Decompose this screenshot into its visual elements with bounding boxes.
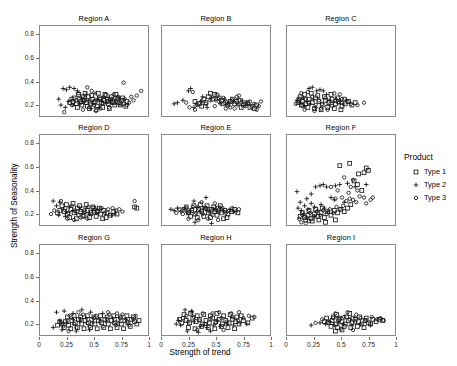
x-tick-label: 0 xyxy=(276,341,296,348)
panel-title-region-b: Region B xyxy=(161,14,271,23)
y-tick-mark xyxy=(36,253,39,254)
scatter-panel-region-d xyxy=(39,134,149,226)
x-tick-mark xyxy=(94,337,95,340)
legend-label: Type 1 xyxy=(424,167,446,176)
x-tick-mark xyxy=(244,337,245,340)
y-tick-mark xyxy=(36,214,39,215)
x-tick-mark xyxy=(341,337,342,340)
x-tick-mark xyxy=(396,337,397,340)
y-tick-mark xyxy=(36,58,39,59)
plus-marker-icon xyxy=(410,179,422,191)
panel-title-region-h: Region H xyxy=(161,233,271,242)
x-tick-label: 1 xyxy=(386,341,406,348)
x-tick-mark xyxy=(39,337,40,340)
x-axis-label: Strength of trend xyxy=(0,348,400,357)
x-tick-mark xyxy=(149,337,150,340)
y-tick-mark xyxy=(36,191,39,192)
x-tick-mark xyxy=(67,337,68,340)
x-tick-mark xyxy=(161,337,162,340)
x-tick-label: 0.5 xyxy=(206,341,226,348)
x-tick-label: 0.75 xyxy=(112,341,132,348)
scatter-panel-region-f xyxy=(286,134,396,226)
x-tick-mark xyxy=(189,337,190,340)
x-tick-label: 0.25 xyxy=(57,341,77,348)
y-tick-mark xyxy=(36,277,39,278)
x-tick-label: 0 xyxy=(29,341,49,348)
y-tick-mark xyxy=(36,301,39,302)
panel-title-region-i: Region I xyxy=(286,233,396,242)
y-tick-label: 0.2 xyxy=(11,320,34,327)
x-tick-mark xyxy=(122,337,123,340)
y-axis-label: Strength of Seasonality xyxy=(10,48,19,248)
x-tick-mark xyxy=(286,337,287,340)
y-tick-mark xyxy=(36,82,39,83)
scatter-panel-region-i xyxy=(286,244,396,336)
y-tick-label: 0.8 xyxy=(11,30,34,37)
x-tick-label: 0.75 xyxy=(234,341,254,348)
x-tick-mark xyxy=(369,337,370,340)
panel-title-region-a: Region A xyxy=(39,14,149,23)
y-tick-label: 0.6 xyxy=(11,273,34,280)
y-tick-mark xyxy=(36,143,39,144)
x-tick-label: 0 xyxy=(151,341,171,348)
x-tick-label: 0.5 xyxy=(331,341,351,348)
scatter-matrix-figure: Region ARegion BRegion CRegion DRegion E… xyxy=(0,0,457,366)
scatter-panel-region-g xyxy=(39,244,149,336)
circle-marker-icon xyxy=(410,192,422,204)
x-tick-label: 0.75 xyxy=(359,341,379,348)
y-tick-mark xyxy=(36,324,39,325)
legend-label: Type 3 xyxy=(424,193,446,202)
x-tick-mark xyxy=(271,337,272,340)
scatter-panel-region-e xyxy=(161,134,271,226)
scatter-panel-region-b xyxy=(161,25,271,117)
y-tick-mark xyxy=(36,167,39,168)
scatter-panel-region-h xyxy=(161,244,271,336)
x-tick-mark xyxy=(216,337,217,340)
scatter-panel-region-c xyxy=(286,25,396,117)
legend-title: Product xyxy=(404,152,433,162)
panel-title-region-e: Region E xyxy=(161,123,271,132)
x-tick-mark xyxy=(314,337,315,340)
y-tick-label: 0.4 xyxy=(11,297,34,304)
x-tick-label: 0.25 xyxy=(179,341,199,348)
x-tick-label: 0.25 xyxy=(304,341,324,348)
panel-title-region-c: Region C xyxy=(286,14,396,23)
panel-title-region-g: Region G xyxy=(39,233,149,242)
legend-label: Type 2 xyxy=(424,180,446,189)
x-tick-label: 0.5 xyxy=(84,341,104,348)
y-tick-mark xyxy=(36,105,39,106)
square-marker-icon xyxy=(410,166,422,178)
panel-title-region-f: Region F xyxy=(286,123,396,132)
panel-title-region-d: Region D xyxy=(39,123,149,132)
scatter-panel-region-a xyxy=(39,25,149,117)
y-tick-mark xyxy=(36,34,39,35)
y-tick-label: 0.8 xyxy=(11,249,34,256)
